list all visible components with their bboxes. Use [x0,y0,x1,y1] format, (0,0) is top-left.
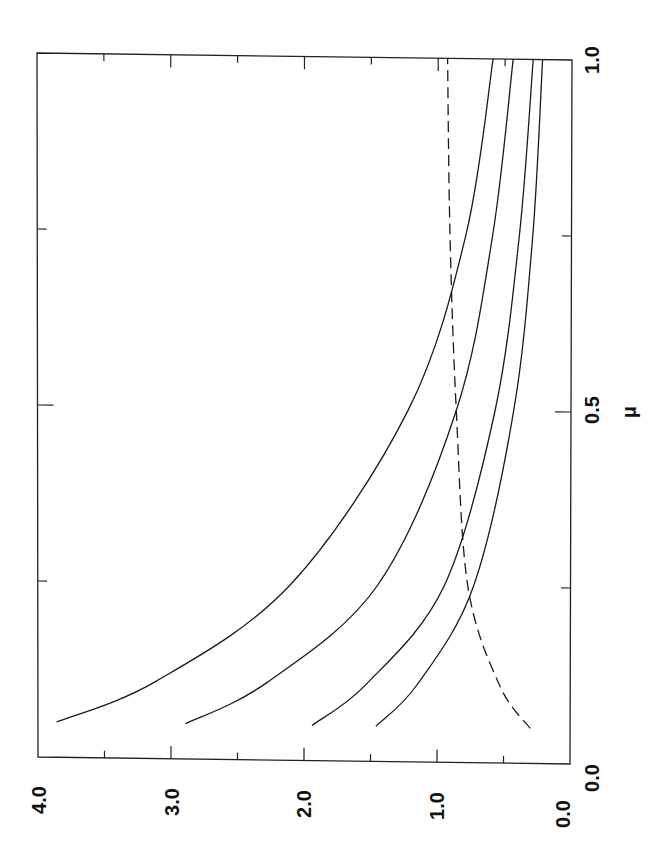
y-tick-label-1: 1.0 [426,792,448,820]
x-axis-label: μ [618,406,640,418]
series-line-3 [312,60,533,726]
y-tick-label-2: 2.0 [293,790,315,818]
series-line-2 [186,59,514,724]
y-tick-label-4: 4.0 [28,786,50,814]
x-tick-label-05: 0.5 [581,396,603,424]
plot-area [37,53,572,764]
dashed-series-line [448,58,531,728]
x-tick-label-1: 1.0 [581,46,603,74]
chart: 4.0 3.0 2.0 1.0 0.0 0.0 0.5 1.0 μ [0,0,659,852]
plot-frame [37,53,572,764]
series-line-1 [57,59,494,722]
line-chart: 4.0 3.0 2.0 1.0 0.0 0.0 0.5 1.0 μ [0,0,659,852]
series-line-4 [376,60,543,727]
y-tick-label-3: 3.0 [161,788,183,816]
x-tick-label-0: 0.0 [581,764,603,792]
y-tick-label-0: 0.0 [552,800,574,828]
